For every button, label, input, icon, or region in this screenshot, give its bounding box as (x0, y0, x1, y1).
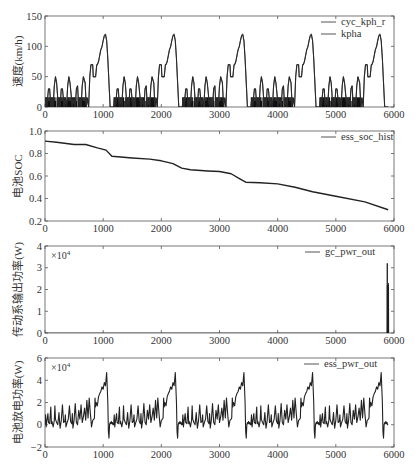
series-line (45, 141, 388, 210)
series-line (45, 35, 388, 107)
x-tick-label: 6000 (384, 335, 405, 346)
x-tick-label: 1000 (93, 449, 114, 460)
plot-lines (45, 372, 388, 438)
y-tick-label: 0 (37, 419, 42, 430)
y-tick-label: 4 (37, 241, 43, 252)
x-tick-label: 3000 (209, 449, 230, 460)
y-tick-label: 2 (37, 284, 42, 295)
y-axis-label: 电池放电功率(W) (11, 360, 25, 444)
figure: 0100020003000400050006000050100150速度(km/… (0, 0, 419, 473)
y-tick-label: 1 (37, 306, 42, 317)
x-tick-label: 0 (42, 109, 47, 120)
subplot-4: 0100020003000400050006000−20246电池放电功率(W)… (11, 353, 405, 461)
legend: ess_soc_hist (321, 131, 394, 142)
x-tick-label: 6000 (384, 449, 405, 460)
x-tick-label: 3000 (209, 335, 230, 346)
y-tick-label: 0.2 (29, 216, 42, 227)
x-tick-label: 4000 (267, 223, 288, 234)
plot-lines (45, 263, 389, 333)
subplot-1: 0100020003000400050006000050100150速度(km/… (11, 11, 405, 121)
x-tick-label: 0 (42, 335, 47, 346)
y-tick-label: −2 (31, 442, 42, 453)
x-tick-label: 0 (42, 449, 47, 460)
y-tick-label: 4 (37, 375, 43, 386)
y-tick-label: 0.8 (29, 148, 42, 159)
legend-entry: ess_soc_hist (341, 131, 394, 142)
y-tick-label: 150 (26, 11, 42, 22)
x-tick-label: 5000 (325, 449, 346, 460)
plot-lines (45, 141, 388, 210)
legend-entry: cyc_kph_r (341, 16, 386, 27)
y-multiplier-label: ×104 (51, 361, 71, 373)
axes-frame (45, 246, 394, 333)
x-tick-label: 2000 (151, 223, 172, 234)
y-multiplier-label: ×104 (51, 249, 71, 261)
legend-entry: kpha (341, 28, 362, 39)
x-tick-label: 3000 (209, 109, 230, 120)
x-tick-label: 6000 (384, 223, 405, 234)
legend-entry: ess_pwr_out (324, 358, 377, 369)
x-tick-label: 5000 (325, 335, 346, 346)
x-tick-label: 2000 (151, 335, 172, 346)
subplot-2: 01000200030004000500060000.20.40.60.81.0… (12, 126, 405, 235)
x-tick-label: 5000 (325, 109, 346, 120)
y-tick-label: 0 (37, 328, 42, 339)
y-tick-label: 6 (37, 353, 42, 364)
y-tick-label: 1.0 (29, 126, 42, 137)
y-tick-label: 0.6 (29, 171, 42, 182)
subplot-3: 010002000300040005000600001234传动系输出功率(W)… (11, 241, 405, 347)
x-tick-label: 1000 (93, 223, 114, 234)
legend: ess_pwr_out (304, 358, 377, 369)
y-tick-label: 0.4 (29, 193, 43, 204)
y-axis-label: 电池SOC (12, 154, 24, 197)
x-tick-label: 4000 (267, 109, 288, 120)
x-tick-label: 5000 (325, 223, 346, 234)
x-tick-label: 1000 (93, 335, 114, 346)
x-tick-label: 4000 (267, 335, 288, 346)
y-axis-label: 速度(km/h) (11, 35, 25, 87)
axes-frame (45, 131, 394, 221)
y-tick-label: 3 (37, 262, 42, 273)
plot-lines (45, 34, 388, 107)
y-tick-label: 0 (37, 102, 42, 113)
legend: gc_pwr_out (305, 246, 375, 257)
x-tick-label: 6000 (384, 109, 405, 120)
y-tick-label: 100 (26, 41, 42, 52)
series-line (45, 263, 389, 333)
legend: cyc_kph_rkpha (321, 16, 386, 39)
y-tick-label: 50 (32, 71, 43, 82)
x-tick-label: 0 (42, 223, 47, 234)
y-axis-label: 传动系输出功率(W) (11, 242, 25, 337)
x-tick-label: 4000 (267, 449, 288, 460)
y-tick-label: 2 (37, 397, 42, 408)
series-line (45, 372, 388, 438)
x-tick-label: 1000 (93, 109, 114, 120)
x-tick-label: 2000 (151, 109, 172, 120)
x-tick-label: 3000 (209, 223, 230, 234)
legend-entry: gc_pwr_out (325, 246, 375, 257)
x-tick-label: 2000 (151, 449, 172, 460)
